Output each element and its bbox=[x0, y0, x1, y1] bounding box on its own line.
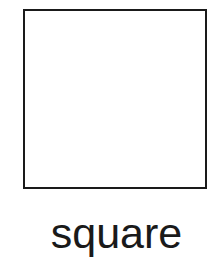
shape-label: square bbox=[0, 208, 219, 258]
square-shape bbox=[23, 9, 207, 189]
